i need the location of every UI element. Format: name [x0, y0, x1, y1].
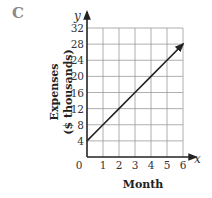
svg-text:8: 8 [77, 119, 84, 131]
x-axis-var: x [194, 152, 201, 166]
svg-text:4: 4 [148, 159, 155, 171]
x-axis-label: Month [123, 178, 164, 191]
y-axis-var: y [73, 9, 81, 23]
svg-text:28: 28 [71, 38, 84, 50]
svg-text:2: 2 [116, 159, 123, 171]
svg-text:5: 5 [164, 159, 171, 171]
svg-text:1: 1 [100, 159, 107, 171]
y-axis-label: Expenses ($ thousands) [48, 49, 75, 135]
chart: 012345648121620242832 Month x y Expenses… [0, 0, 212, 198]
svg-text:6: 6 [180, 159, 187, 171]
svg-text:32: 32 [71, 22, 84, 34]
svg-text:0: 0 [76, 159, 83, 171]
svg-text:4: 4 [77, 135, 84, 147]
svg-text:Expenses: Expenses [48, 63, 61, 120]
svg-text:($ thousands): ($ thousands) [62, 49, 75, 135]
svg-text:3: 3 [132, 159, 139, 171]
